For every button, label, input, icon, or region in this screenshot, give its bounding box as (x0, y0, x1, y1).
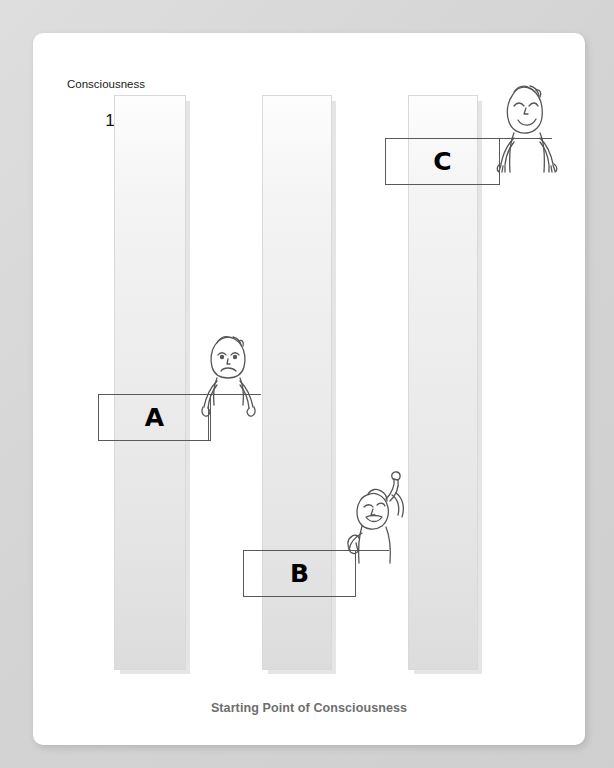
content-figure-icon (338, 471, 412, 576)
column-bar-a (114, 95, 186, 670)
chart-card: Consciousness Level 1000 20 C A B (33, 33, 585, 745)
chart-caption: Starting Point of Consciousness (33, 701, 585, 715)
happy-figure-icon (488, 78, 564, 186)
callout-label-c: C (433, 147, 451, 176)
sad-figure-icon (193, 329, 265, 429)
callout-label-a: A (145, 403, 164, 432)
callout-label-b: B (290, 559, 309, 588)
callout-box-c[interactable]: C (385, 138, 500, 185)
